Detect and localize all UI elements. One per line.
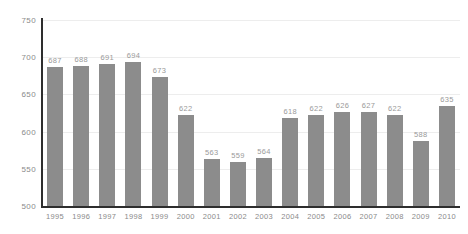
bar[interactable] [178, 115, 194, 206]
bar-value-label: 694 [127, 51, 140, 60]
bar[interactable] [99, 64, 115, 206]
y-axis-tick-label: 700 [2, 53, 36, 62]
y-axis-tick-label: 550 [2, 164, 36, 173]
bar-slot[interactable]: 564 [251, 20, 277, 206]
bar[interactable] [230, 162, 246, 206]
y-axis-tick-label: 650 [2, 90, 36, 99]
bar[interactable] [387, 115, 403, 206]
x-axis-tick-label: 2010 [430, 212, 464, 221]
bar[interactable] [413, 141, 429, 206]
bar[interactable] [282, 118, 298, 206]
bar-slot[interactable]: 559 [225, 20, 251, 206]
bar-slot[interactable]: 627 [356, 20, 382, 206]
bar-value-label: 627 [362, 101, 375, 110]
bar-value-label: 626 [336, 101, 349, 110]
x-axis-line [42, 206, 460, 208]
bar-slot[interactable]: 622 [382, 20, 408, 206]
bar[interactable] [125, 62, 141, 206]
bar-slot[interactable]: 588 [408, 20, 434, 206]
bar-chart: 750700650600550500 687688691694673622563… [0, 0, 468, 234]
bar-slot[interactable]: 618 [277, 20, 303, 206]
bar[interactable] [47, 67, 63, 206]
bar-slot[interactable]: 687 [42, 20, 68, 206]
bar[interactable] [256, 158, 272, 206]
bar-slot[interactable]: 622 [303, 20, 329, 206]
bar-slot[interactable]: 688 [68, 20, 94, 206]
bar-value-label: 691 [101, 53, 114, 62]
bar-value-label: 622 [310, 104, 323, 113]
bar-value-label: 618 [283, 107, 296, 116]
bar-value-label: 559 [231, 151, 244, 160]
y-axis-tick-labels: 750700650600550500 [0, 20, 36, 206]
y-axis-tick-label: 500 [2, 202, 36, 211]
bar[interactable] [439, 106, 455, 206]
x-axis-tick-labels: 1995199619971998199920002001200220032004… [42, 210, 460, 230]
bar[interactable] [308, 115, 324, 206]
bar-value-label: 622 [388, 104, 401, 113]
bar-slot[interactable]: 563 [199, 20, 225, 206]
y-axis-line [41, 18, 43, 208]
bar-slot[interactable]: 694 [120, 20, 146, 206]
bar[interactable] [361, 112, 377, 206]
plot-area: 6876886916946736225635595646186226266276… [42, 20, 460, 206]
bar-slot[interactable]: 622 [173, 20, 199, 206]
bar-value-label: 563 [205, 148, 218, 157]
bar[interactable] [73, 66, 89, 206]
bar[interactable] [334, 112, 350, 206]
bar-value-label: 635 [440, 95, 453, 104]
bar-value-label: 673 [153, 66, 166, 75]
bar-value-label: 588 [414, 130, 427, 139]
bar-slot[interactable]: 635 [434, 20, 460, 206]
bar-slot[interactable]: 673 [147, 20, 173, 206]
bar[interactable] [204, 159, 220, 206]
bar-value-label: 564 [257, 147, 270, 156]
bar-slot[interactable]: 626 [329, 20, 355, 206]
bar-value-label: 688 [74, 55, 87, 64]
y-axis-tick-label: 600 [2, 127, 36, 136]
y-axis-tick-label: 750 [2, 16, 36, 25]
bar-value-label: 622 [179, 104, 192, 113]
bar-slot[interactable]: 691 [94, 20, 120, 206]
bar-value-label: 687 [48, 56, 61, 65]
bar[interactable] [152, 77, 168, 206]
